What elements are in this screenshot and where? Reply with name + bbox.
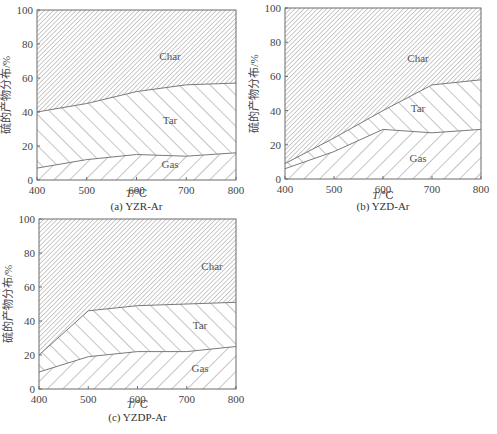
y-axis-title: 硫的产物分布/% xyxy=(1,265,14,343)
y-axis-title: 硫的产物分布/% xyxy=(0,56,12,134)
x-tick-label: 700 xyxy=(178,184,195,196)
region-label-tar: Tar xyxy=(193,319,208,331)
x-tick-label: 800 xyxy=(228,184,245,196)
x-tick-label: 700 xyxy=(424,183,441,195)
panel-yzd-ar: 020406080100400500600700800T/℃硫的产物分布/%Ch… xyxy=(247,2,490,213)
y-tick-label: 100 xyxy=(19,213,36,225)
region-label-gas: Gas xyxy=(161,158,178,170)
region-label-gas: Gas xyxy=(409,152,426,164)
y-tick-label: 40 xyxy=(270,105,282,117)
region-label-char: Char xyxy=(407,52,429,64)
x-tick-label: 400 xyxy=(29,184,46,196)
x-axis-title: T/℃ xyxy=(126,187,148,199)
region-label-gas: Gas xyxy=(191,362,208,374)
region-label-char: Char xyxy=(159,50,181,62)
figure: 020406080100400500600700800T/℃硫的产物分布/%Ch… xyxy=(0,0,497,434)
panel-caption: (c) YZDP-Ar xyxy=(108,411,167,424)
y-tick-label: 100 xyxy=(17,4,34,16)
panel-yzdp-ar: 020406080100400500600700800T/℃硫的产物分布/%Ch… xyxy=(1,213,245,424)
y-tick-label: 60 xyxy=(270,70,282,82)
panel-caption: (a) YZR-Ar xyxy=(111,200,163,213)
y-tick-label: 80 xyxy=(270,36,282,48)
y-tick-label: 60 xyxy=(24,281,36,293)
y-tick-label: 20 xyxy=(270,139,282,151)
x-tick-label: 400 xyxy=(31,393,48,405)
y-tick-label: 60 xyxy=(22,72,34,84)
y-tick-label: 40 xyxy=(22,106,34,118)
x-tick-label: 800 xyxy=(228,393,245,405)
y-tick-label: 20 xyxy=(22,140,34,152)
x-tick-label: 800 xyxy=(473,183,490,195)
x-tick-label: 400 xyxy=(277,183,294,195)
figure-footer-faint xyxy=(0,424,497,434)
x-axis-title: T/℃ xyxy=(127,398,149,410)
panel-yzr-ar: 020406080100400500600700800T/℃硫的产物分布/%Ch… xyxy=(0,4,245,213)
region-label-tar: Tar xyxy=(411,102,426,114)
y-tick-label: 100 xyxy=(265,2,282,14)
y-tick-label: 80 xyxy=(22,38,34,50)
y-axis-title: 硫的产物分布/% xyxy=(247,54,260,132)
x-tick-label: 500 xyxy=(80,393,97,405)
region-label-char: Char xyxy=(201,260,223,272)
x-tick-label: 500 xyxy=(326,183,343,195)
x-tick-label: 700 xyxy=(179,393,196,405)
region-label-tar: Tar xyxy=(163,114,178,126)
y-tick-label: 20 xyxy=(24,349,36,361)
x-tick-label: 500 xyxy=(79,184,96,196)
y-tick-label: 40 xyxy=(24,315,36,327)
panel-caption: (b) YZD-Ar xyxy=(356,200,409,213)
y-tick-label: 80 xyxy=(24,247,36,259)
